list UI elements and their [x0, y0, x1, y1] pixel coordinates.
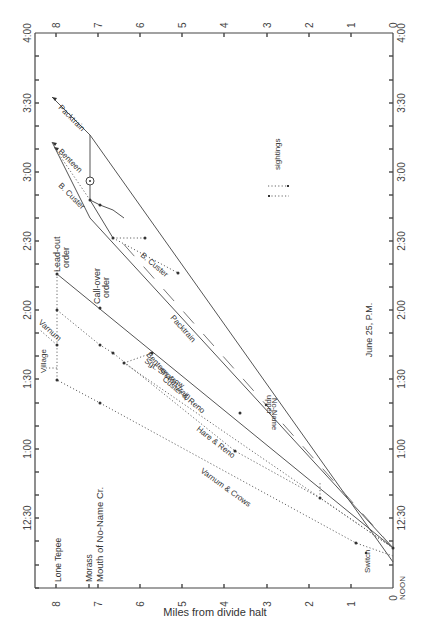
top-mile-0: 0	[388, 22, 399, 28]
left-tick-100: 1:00	[22, 439, 33, 459]
label-switch: Switch	[363, 549, 372, 573]
label-call-over-2: order	[101, 277, 111, 298]
top-mile-4: 4	[219, 22, 230, 28]
mouth-label: Mouth of No-Name Cr.	[94, 487, 105, 582]
bottom-mile-8: 8	[51, 601, 62, 607]
series	[40, 97, 393, 562]
right-tick-330: 3:30	[396, 93, 407, 113]
label-b-custer-2: B. Custer	[139, 251, 171, 280]
left-tick-400: 4:00	[22, 23, 33, 43]
right-tick-100: 1:00	[396, 439, 407, 459]
left-tick-300: 3:00	[22, 162, 33, 182]
top-mile-6: 6	[135, 22, 146, 28]
x-axis-label: June 25, P.M.	[364, 303, 374, 357]
right-tick-1230: 12:30	[396, 505, 407, 530]
label-upper-no-name: No-Name	[270, 398, 279, 430]
bottom-mile-7: 7	[93, 601, 104, 607]
right-tick-200: 2:00	[396, 300, 407, 320]
right-tick-230: 2:30	[396, 231, 407, 251]
morass-label: Morass	[84, 554, 94, 582]
label-hare-reno: Hare & Reno	[195, 424, 237, 460]
bottom-mile-2: 2	[304, 601, 315, 607]
left-time-axis: 12:30 1:00 1:30 2:00 2:30 3:00 3:30 4:00	[22, 23, 39, 588]
series-benteen-on-trail	[120, 240, 393, 548]
legend: sightings	[268, 138, 289, 197]
bottom-mile-6: 6	[135, 601, 146, 607]
right-tick-130: 1:30	[396, 369, 407, 389]
left-tick-130: 1:30	[22, 369, 33, 389]
series-varnum-crows	[57, 380, 393, 556]
top-mile-8: 8	[51, 22, 62, 28]
label-b-custer-1: B. Custer	[57, 181, 87, 211]
bottom-mile-0: 0	[388, 595, 399, 601]
left-tick-330: 3:30	[22, 93, 33, 113]
right-tick-300: 3:00	[396, 162, 407, 182]
packtrain-arrow-icon	[52, 97, 57, 101]
y-axis-label: Miles from divide halt	[163, 606, 266, 618]
series-varnum-2	[57, 310, 100, 345]
right-time-axis: NOON 12:30 1:00 1:30 2:00 2:30 3:00 3:30…	[364, 23, 407, 600]
series-sgt-sharrow	[124, 363, 393, 548]
top-mile-1: 1	[346, 22, 357, 28]
top-mile-5: 5	[177, 22, 188, 28]
legend-title: sightings	[273, 138, 282, 170]
label-varnum-crows: Varnum & Crows	[199, 466, 253, 508]
label-benteen: Benteen	[57, 147, 84, 174]
label-packtrain: Packtrain	[169, 313, 198, 344]
series-hare-reno	[100, 345, 393, 548]
series-labels: Packtrain Benteen B. Custer B. Custer Pa…	[37, 103, 372, 573]
label-packtrain-top: Packtrain	[57, 103, 87, 133]
label-village: Village	[39, 349, 48, 373]
top-mile-7: 7	[93, 22, 104, 28]
lone-tepee-label: Lone Tepee	[53, 537, 63, 582]
top-mile-3: 3	[262, 22, 273, 28]
series-custer-reno	[57, 274, 393, 548]
left-tick-230: 2:30	[22, 231, 33, 251]
label-varnum: Varnum	[37, 318, 64, 343]
place-markers: Lone Tepee Morass Mouth of No-Name Cr.	[53, 487, 105, 582]
left-tick-200: 2:00	[22, 300, 33, 320]
label-lead-out-2: order	[61, 247, 71, 268]
bottom-mile-1: 1	[346, 601, 357, 607]
top-mile-2: 2	[304, 22, 315, 28]
left-tick-1230: 12:30	[22, 505, 33, 530]
chart: 12:30 1:00 1:30 2:00 2:30 3:00 3:30 4:00	[0, 0, 438, 636]
right-tick-noon: NOON	[398, 576, 407, 600]
